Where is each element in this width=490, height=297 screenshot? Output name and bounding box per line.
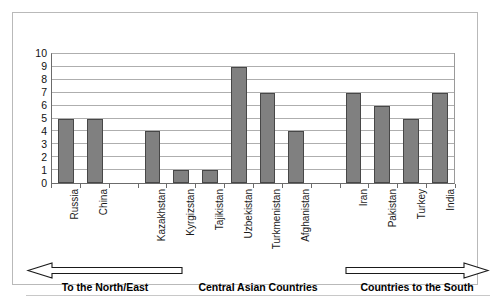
x-tick-mark bbox=[166, 184, 167, 188]
y-tick-label: 10 bbox=[23, 49, 47, 58]
x-tick-mark bbox=[224, 184, 225, 188]
y-tick-label: 0 bbox=[23, 179, 47, 188]
x-axis-label: Afghanistan bbox=[300, 189, 311, 242]
left-arrow-icon bbox=[26, 262, 184, 279]
x-label-slot: China bbox=[80, 189, 109, 257]
bar-slot bbox=[425, 54, 454, 183]
x-axis-label: Turkmenistan bbox=[271, 189, 282, 249]
x-axis-label: Russia bbox=[69, 189, 80, 220]
legend-group-north-east: To the North/East bbox=[26, 262, 184, 297]
x-label-slot: Turkey bbox=[397, 189, 426, 257]
x-label-slot: Uzbekistan bbox=[224, 189, 253, 257]
legend-divider bbox=[26, 295, 490, 296]
legend-group-south: Countries to the South bbox=[344, 262, 490, 297]
x-label-slot: Kazakhstan bbox=[138, 189, 167, 257]
x-axis-ticks bbox=[51, 184, 455, 188]
bar-slot bbox=[368, 54, 397, 183]
x-label-slot: India bbox=[426, 189, 455, 257]
bar-slot bbox=[339, 54, 368, 183]
x-axis-label: Iran bbox=[358, 189, 369, 206]
bar[interactable] bbox=[87, 119, 103, 184]
x-tick-mark bbox=[253, 184, 254, 188]
x-tick-mark bbox=[80, 184, 81, 188]
bar-slot bbox=[224, 54, 253, 183]
bar[interactable] bbox=[432, 93, 448, 183]
bar[interactable] bbox=[403, 119, 419, 184]
y-tick-label: 2 bbox=[23, 153, 47, 162]
x-label-slot: Iran bbox=[340, 189, 369, 257]
x-tick-mark bbox=[138, 184, 139, 188]
y-tick-label: 6 bbox=[23, 101, 47, 110]
y-tick-label: 5 bbox=[23, 114, 47, 123]
x-tick-mark bbox=[426, 184, 427, 188]
x-tick-mark bbox=[455, 184, 456, 188]
bar-slot bbox=[253, 54, 282, 183]
x-axis-label: India bbox=[445, 189, 456, 211]
x-axis-label: Turkey bbox=[416, 189, 427, 219]
bar[interactable] bbox=[202, 170, 218, 183]
bar[interactable] bbox=[145, 131, 161, 183]
x-tick-mark bbox=[340, 184, 341, 188]
legend-group-central-asia: Central Asian Countries bbox=[184, 262, 332, 297]
x-axis-label: Uzbekistan bbox=[243, 189, 254, 238]
legend-caption-north-east: To the North/East bbox=[26, 281, 184, 293]
x-label-slot: Turkmenistan bbox=[253, 189, 282, 257]
x-label-slot: Pakistan bbox=[368, 189, 397, 257]
bar[interactable] bbox=[346, 93, 362, 183]
chart-frame: 109876543210 RussiaChinaKazakhstanKyrgiz… bbox=[12, 12, 478, 285]
y-tick-label: 4 bbox=[23, 127, 47, 136]
bar-slot bbox=[81, 54, 110, 183]
bar[interactable] bbox=[260, 93, 276, 183]
bar-slot bbox=[196, 54, 225, 183]
y-tick-label: 7 bbox=[23, 88, 47, 97]
bar[interactable] bbox=[58, 119, 74, 184]
y-tick-label: 8 bbox=[23, 75, 47, 84]
y-tick-label: 1 bbox=[23, 166, 47, 175]
x-axis-label: Kazakhstan bbox=[156, 189, 167, 241]
x-label-slot: Afghanistan bbox=[282, 189, 311, 257]
bar-slot bbox=[282, 54, 311, 183]
x-axis-label: Kyrgizstan bbox=[185, 189, 196, 236]
x-axis-label: Pakistan bbox=[387, 189, 398, 227]
x-tick-mark bbox=[282, 184, 283, 188]
x-tick-mark bbox=[195, 184, 196, 188]
y-tick-label: 9 bbox=[23, 62, 47, 71]
x-axis-label: China bbox=[98, 189, 109, 215]
bar[interactable] bbox=[288, 131, 304, 183]
x-tick-mark bbox=[109, 184, 110, 188]
bar-slot bbox=[52, 54, 81, 183]
group-legend-band: To the North/East Central Asian Countrie… bbox=[26, 262, 490, 297]
bar[interactable] bbox=[374, 106, 390, 183]
legend-caption-central-asia: Central Asian Countries bbox=[184, 281, 332, 293]
x-label-slot bbox=[311, 189, 340, 257]
bar-slot bbox=[397, 54, 426, 183]
x-label-slot: Kyrgizstan bbox=[166, 189, 195, 257]
x-axis-label: Tajikistan bbox=[214, 189, 225, 230]
bar-slot-empty bbox=[310, 54, 339, 183]
right-arrow-icon bbox=[344, 262, 490, 279]
y-axis: 109876543210 bbox=[23, 53, 47, 184]
bar-slot-empty bbox=[109, 54, 138, 183]
x-tick-mark bbox=[397, 184, 398, 188]
y-tick-label: 3 bbox=[23, 140, 47, 149]
x-label-slot: Russia bbox=[51, 189, 80, 257]
x-label-slot: Tajikistan bbox=[195, 189, 224, 257]
bar[interactable] bbox=[173, 170, 189, 183]
x-tick-mark bbox=[368, 184, 369, 188]
bar-slot bbox=[167, 54, 196, 183]
legend-caption-south: Countries to the South bbox=[344, 281, 490, 293]
plot-area bbox=[51, 53, 455, 184]
bar-slot bbox=[138, 54, 167, 183]
bar-series bbox=[52, 54, 454, 183]
x-tick-mark bbox=[311, 184, 312, 188]
bar[interactable] bbox=[231, 67, 247, 183]
x-label-slot bbox=[109, 189, 138, 257]
x-tick-mark bbox=[51, 184, 52, 188]
x-axis-labels: RussiaChinaKazakhstanKyrgizstanTajikista… bbox=[51, 189, 455, 257]
